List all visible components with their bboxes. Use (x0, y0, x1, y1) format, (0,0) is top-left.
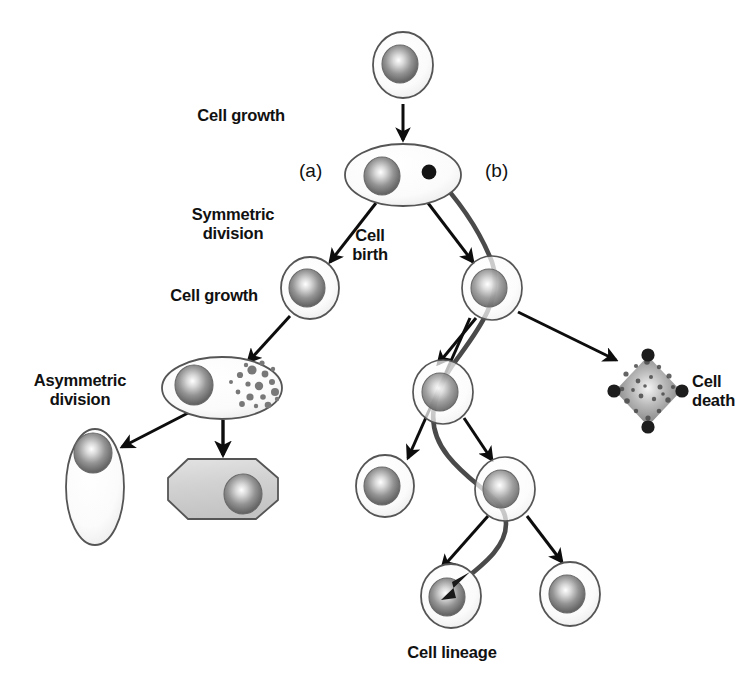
label-cell-growth-top: Cell growth (140, 106, 285, 125)
arrow-lineage2-to-lineage3 (464, 418, 492, 460)
cell-dividing (345, 144, 461, 206)
label-asymmetric-division: Asymmetric division (8, 371, 152, 409)
label-cell-growth-left: Cell growth (110, 286, 258, 305)
cell-leaf-right (540, 562, 600, 626)
cell-lineage-1 (462, 256, 522, 320)
cell-lineage-3 (475, 457, 535, 521)
arrow-cell-growth-left (248, 316, 290, 362)
label-branch-a: (a) (299, 160, 322, 182)
cell-death-blob (607, 348, 688, 433)
label-cell-lineage: Cell lineage (382, 643, 522, 662)
label-branch-b: (b) (485, 160, 508, 182)
cell-founder (373, 32, 433, 98)
lineage-origin-dot (422, 165, 437, 180)
diagram-canvas (0, 0, 741, 680)
arrow-cell-death (518, 312, 616, 360)
cell-tall-daughter (66, 429, 124, 545)
cell-flat-daughter (168, 459, 278, 519)
cell-leaf-left (356, 455, 414, 517)
cell-cycle-diagram: Cell growth (a) (b) Symmetric division C… (0, 0, 741, 680)
label-cell-death: Cell death (692, 372, 741, 410)
cell-lineage-2 (413, 360, 473, 424)
arrow-lineage3-to-leafright (527, 516, 562, 562)
cell-granular (162, 357, 282, 419)
label-cell-birth: Cell birth (332, 226, 408, 264)
cell-symmetric-daughter (281, 257, 339, 319)
label-symmetric-division: Symmetric division (168, 205, 298, 243)
arrow-asymmetric-division (122, 412, 190, 447)
